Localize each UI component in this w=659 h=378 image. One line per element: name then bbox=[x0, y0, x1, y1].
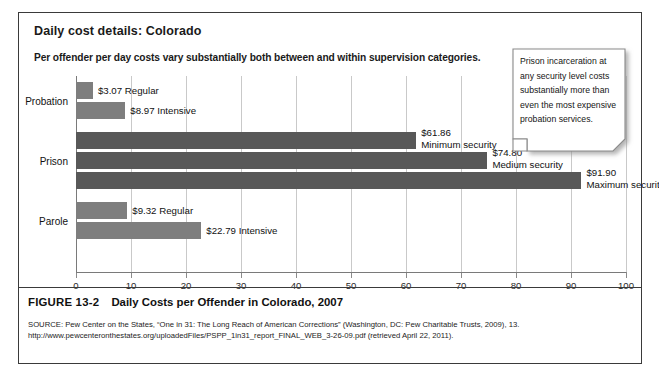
figure-page: Daily cost details: Colorado Per offende… bbox=[0, 0, 659, 378]
source-line-2: http://www.pewcenteronthestates.org/uplo… bbox=[28, 330, 634, 341]
y-axis-category-label: Probation bbox=[25, 95, 68, 106]
x-axis-tick-label: 0 bbox=[73, 280, 78, 291]
bar-label: $91.90Maximum security bbox=[586, 167, 659, 190]
bar-label: $22.79 Intensive bbox=[206, 225, 277, 237]
figure-caption: FIGURE 13-2 Daily Costs per Offender in … bbox=[28, 296, 343, 308]
x-axis-tick-label: 30 bbox=[236, 280, 247, 291]
bar-category-label: Intensive bbox=[157, 105, 196, 116]
bar-value-label: $22.79 bbox=[206, 225, 236, 236]
x-axis-tick-label: 50 bbox=[346, 280, 357, 291]
source-note: SOURCE: Pew Center on the States, “One i… bbox=[28, 319, 634, 341]
bar-label: $61.86Minimum security bbox=[421, 127, 496, 150]
bar-value-label: $8.97 bbox=[130, 105, 154, 116]
x-axis-tick bbox=[626, 272, 627, 278]
bar-value-label: $61.86 bbox=[421, 127, 496, 139]
bar bbox=[76, 82, 93, 99]
x-axis-line bbox=[76, 272, 626, 273]
source-line-1: SOURCE: Pew Center on the States, “One i… bbox=[28, 319, 634, 330]
bar bbox=[76, 152, 487, 169]
bar-label: $8.97 Intensive bbox=[130, 105, 196, 117]
bar bbox=[76, 102, 125, 119]
x-axis-tick-label: 60 bbox=[401, 280, 412, 291]
bar bbox=[76, 202, 127, 219]
bar-label: $9.32 Regular bbox=[132, 205, 193, 217]
x-axis-tick-label: 80 bbox=[511, 280, 522, 291]
caption-divider bbox=[18, 287, 642, 288]
figure-title: Daily Costs per Offender in Colorado, 20… bbox=[111, 296, 343, 308]
callout-text: Prison incarceration at any security lev… bbox=[520, 54, 618, 127]
figure-subtitle: Per offender per day costs vary substant… bbox=[34, 52, 480, 63]
bar-category-label: Regular bbox=[125, 85, 159, 96]
x-axis-tick-label: 70 bbox=[456, 280, 467, 291]
bar-category-label: Regular bbox=[159, 205, 193, 216]
x-axis-tick-label: 90 bbox=[566, 280, 577, 291]
bar-value-label: $3.07 bbox=[98, 85, 122, 96]
figure-number: FIGURE 13-2 bbox=[28, 296, 99, 308]
x-axis-tick-label: 100 bbox=[618, 280, 634, 291]
y-axis-category-label: Parole bbox=[39, 215, 68, 226]
y-axis-category-label: Prison bbox=[40, 155, 68, 166]
bar bbox=[76, 132, 416, 149]
callout-box: Prison incarceration at any security lev… bbox=[511, 47, 625, 152]
bar-label: $3.07 Regular bbox=[98, 85, 159, 97]
bar-value-label: $9.32 bbox=[132, 205, 156, 216]
x-axis-tick-label: 40 bbox=[291, 280, 302, 291]
bar bbox=[76, 172, 581, 189]
bar-category-label: Maximum security bbox=[586, 179, 659, 191]
x-axis-tick-label: 10 bbox=[126, 280, 137, 291]
bar-category-label: Minimum security bbox=[421, 139, 496, 151]
x-axis-tick-label: 20 bbox=[181, 280, 192, 291]
page-title: Daily cost details: Colorado bbox=[34, 24, 201, 38]
bar bbox=[76, 222, 201, 239]
bar-category-label: Intensive bbox=[239, 225, 278, 236]
